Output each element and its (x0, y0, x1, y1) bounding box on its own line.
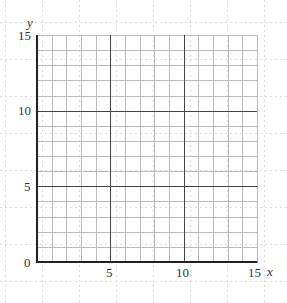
x-axis-label: x (267, 265, 273, 278)
y-tick-label-10: 10 (18, 104, 31, 117)
origin-label: 0 (24, 256, 31, 269)
y-tick-label-5: 5 (24, 180, 31, 193)
x-tick-label-15: 15 (248, 266, 261, 279)
x-tick-label-10: 10 (176, 266, 189, 279)
x-tick-label-5: 5 (106, 266, 113, 279)
y-tick-label-15: 15 (18, 29, 31, 42)
coordinate-grid (0, 0, 287, 303)
